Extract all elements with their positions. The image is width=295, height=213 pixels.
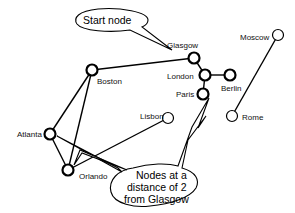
edge-moscow-rome [232, 35, 278, 116]
node-label-atlanta: Atlanta [17, 130, 42, 139]
node-circle-icon [273, 30, 284, 41]
node-circle-icon [198, 89, 209, 100]
node-berlin: Berlin [221, 70, 241, 94]
start-node-callout: Start node [76, 9, 172, 50]
distance-callout-line-2: distance of 2 [127, 181, 187, 193]
node-circle-icon [189, 53, 200, 64]
node-circle-icon [227, 111, 238, 122]
node-label-london: London [167, 72, 194, 81]
node-london: London [167, 70, 211, 82]
distance-callout-line-3: from Glasgow [124, 193, 189, 205]
graph-diagram: Start node Nodes at a distance of 2 from… [0, 0, 295, 213]
node-circle-icon [163, 113, 174, 124]
node-circle-icon [225, 70, 236, 81]
node-label-orlando: Orlando [79, 172, 108, 181]
distance-callout: Nodes at a distance of 2 from Glasgow [57, 98, 209, 206]
node-lisbon: Lisbon [140, 112, 174, 124]
node-label-glasgow: Glasgow [167, 41, 198, 50]
start-node-callout-text: Start node [83, 14, 132, 26]
node-label-lisbon: Lisbon [140, 112, 164, 121]
node-label-paris: Paris [176, 90, 194, 99]
node-label-berlin: Berlin [221, 84, 241, 93]
edge-glasgow-boston [92, 58, 194, 70]
node-label-boston: Boston [97, 77, 122, 86]
distance-callout-line-1: Nodes at a [136, 169, 187, 181]
node-orlando: Orlando [63, 165, 109, 182]
node-label-rome: Rome [242, 113, 264, 122]
node-paris: Paris [176, 89, 209, 100]
node-circle-icon [87, 65, 98, 76]
node-rome: Rome [227, 111, 264, 123]
edge-orlando-lisbon [68, 118, 168, 170]
graph-nodes: GlasgowLondonBerlinParisLisbonBostonAtla… [17, 30, 284, 182]
node-moscow: Moscow [240, 30, 284, 43]
edge-boston-atlanta [50, 70, 92, 134]
node-atlanta: Atlanta [17, 129, 56, 140]
node-label-moscow: Moscow [240, 33, 270, 42]
node-circle-icon [63, 165, 74, 176]
node-circle-icon [45, 129, 56, 140]
node-circle-icon [200, 70, 211, 81]
